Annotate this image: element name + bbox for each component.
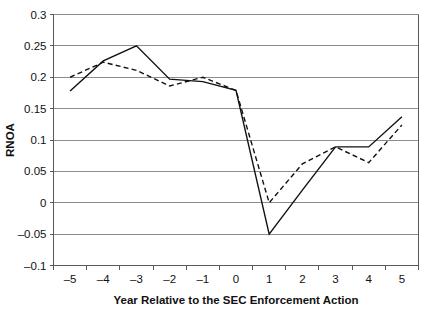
x-tick-label: 5 [399,273,405,285]
y-tick-label: 0.05 [24,165,46,177]
x-tick-label: –2 [163,273,176,285]
x-tick-label: 4 [366,273,373,285]
y-tick-label: 0.2 [31,71,47,83]
x-tick-labels: –5–4–3–2–1012345 [64,273,405,285]
y-axis-title: RNOA [4,123,16,157]
x-tick-label: –1 [196,273,209,285]
y-tick-label: 0 [40,197,46,209]
x-tick-label: 0 [233,273,239,285]
series-line-dashed-series [70,62,402,203]
chart-canvas: 0.30.250.20.150.10.050–0.05–0.1 –5–4–3–2… [0,0,433,314]
x-tick-label: 2 [299,273,305,285]
x-tick-label: 3 [332,273,338,285]
y-tick-label: 0.15 [24,103,46,115]
y-tick-label: –0.05 [18,228,47,240]
x-tick-label: –5 [64,273,77,285]
x-axis-title: Year Relative to the SEC Enforcement Act… [114,294,359,306]
x-tick-marks [54,266,419,270]
gridlines [54,15,419,266]
y-tick-labels: 0.30.250.20.150.10.050–0.05–0.1 [18,9,47,272]
y-tick-label: 0.1 [31,134,47,146]
x-tick-label: –4 [97,273,110,285]
y-tick-label: 0.3 [31,9,47,21]
rnoa-line-chart: 0.30.250.20.150.10.050–0.05–0.1 –5–4–3–2… [0,0,433,314]
x-tick-label: –3 [130,273,143,285]
y-tick-label: –0.1 [24,260,46,272]
y-tick-label: 0.25 [24,40,46,52]
y-tick-marks [50,15,54,266]
x-tick-label: 1 [266,273,272,285]
